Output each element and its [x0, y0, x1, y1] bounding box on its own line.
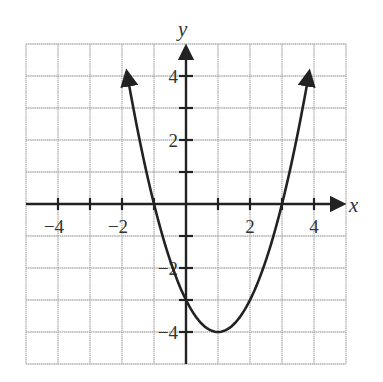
x-tick-label: −2 [108, 216, 128, 237]
x-tick-label: 4 [309, 216, 319, 237]
y-axis-label: y [176, 17, 188, 41]
x-tick-label: 2 [245, 216, 255, 237]
y-tick-label: 2 [169, 130, 179, 151]
x-tick-label: −4 [44, 216, 65, 237]
y-tick-label: −4 [158, 322, 179, 343]
y-tick-label: 4 [169, 66, 179, 87]
parabola-graph: −4−22442−2−4 x y [0, 0, 383, 382]
axes [26, 47, 343, 364]
x-axis-label: x [348, 193, 359, 217]
